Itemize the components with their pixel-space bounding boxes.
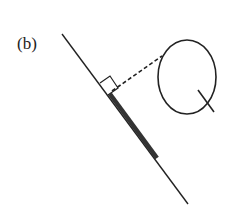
panel-label: (b) xyxy=(17,34,37,53)
dashed-perpendicular xyxy=(112,56,162,91)
right-angle-marker xyxy=(100,76,118,95)
curve-tail xyxy=(198,90,214,112)
diagonal-line xyxy=(62,34,188,204)
thick-segment xyxy=(110,94,157,158)
figure-diagram: (b) xyxy=(0,0,232,209)
